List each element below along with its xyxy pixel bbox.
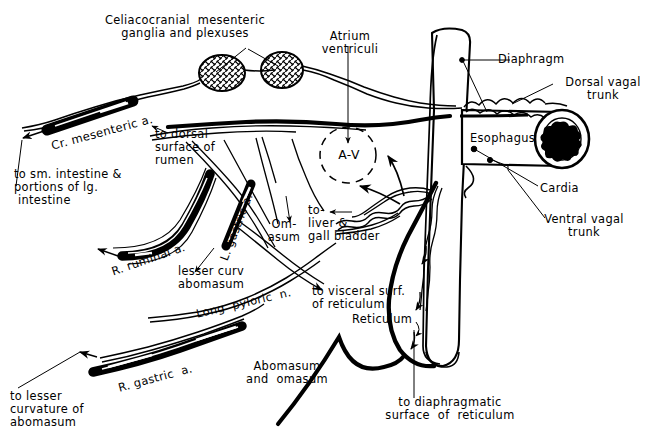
celiac-ganglion-left [199,55,245,91]
label-celiacocranial-ganglia: Celiacocranial mesenteric ganglia and pl… [60,14,310,40]
label-lesser-curvature-abomasum: lesser curv abomasum [178,265,244,291]
label-reticulum: Reticulum [352,313,412,326]
label-av: A-V [328,148,370,161]
label-to-diaphragmatic-surface-of-reticulum: to diaphragmatic surface of reticulum [355,396,545,422]
label-to-small-intestine: to sm. intestine & portions of lg. intes… [14,168,122,208]
label-abomasum-and-omasum: Abomasum and omasum [232,360,342,386]
label-omasum: Om- asum [262,218,306,244]
label-dorsal-vagal-trunk: Dorsal vagal trunk [548,76,658,102]
anatomical-diagram-canvas: Celiacocranial mesenteric ganglia and pl… [0,0,665,444]
label-to-visceral-surface-of-reticulum: to visceral surf. of reticulum [312,285,405,311]
label-to-dorsal-surface-of-rumen: to dorsal surface of rumen [155,128,215,168]
av-arrows [360,156,404,204]
label-esophagus: Esophagus [470,132,535,145]
label-diaphragm: Diaphragm [498,53,565,66]
label-to-liver-and-gall-bladder: to- liver & gall bladder [308,204,380,244]
label-ventral-vagal-trunk: Ventral vagal trunk [528,213,640,239]
label-cardia: Cardia [540,182,579,195]
label-to-lesser-curvature-of-abomasum: to lesser curvature of abomasum [10,390,84,430]
right-gastric-artery [93,326,242,372]
label-atrium-ventriculi: Atrium ventriculi [310,30,390,56]
